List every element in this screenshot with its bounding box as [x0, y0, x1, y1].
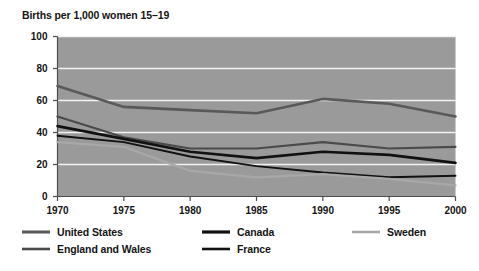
legend-item-united-states[interactable]: United States	[22, 223, 202, 240]
x-tick-label: 1980	[168, 206, 212, 216]
legend-line-swatch	[352, 228, 380, 236]
legend-item-label: United States	[57, 226, 123, 238]
y-tick-label: 0	[22, 192, 48, 202]
chart-container: Births per 1,000 women 15–19 02040608010…	[0, 0, 479, 271]
legend-item-sweden[interactable]: Sweden	[352, 223, 467, 240]
y-tick-label: 100	[22, 32, 48, 42]
x-tick-label: 1995	[367, 206, 411, 216]
plot-background-rect	[58, 37, 456, 197]
legend-line-swatch	[202, 245, 230, 253]
x-axis-ticks	[58, 197, 456, 202]
legend-line-swatch	[22, 245, 50, 253]
y-tick-label: 80	[22, 64, 48, 74]
legend-item-france[interactable]: France	[202, 240, 352, 257]
y-tick-label: 40	[22, 128, 48, 138]
legend-item-label: Canada	[237, 226, 274, 238]
y-tick-label: 60	[22, 96, 48, 106]
legend-item-label: Sweden	[387, 226, 426, 238]
x-tick-label: 1985	[235, 206, 279, 216]
legend-line-swatch	[22, 228, 50, 236]
chart-legend: United StatesCanadaSwedenEngland and Wal…	[22, 223, 467, 257]
legend-item-label: France	[237, 243, 271, 255]
x-tick-label: 2000	[434, 206, 478, 216]
legend-item-label: England and Wales	[57, 243, 151, 255]
x-tick-label: 1990	[301, 206, 345, 216]
legend-line-swatch	[202, 228, 230, 236]
plot-background	[58, 37, 456, 197]
y-tick-label: 20	[22, 160, 48, 170]
x-tick-label: 1970	[36, 206, 80, 216]
legend-item-england-and-wales[interactable]: England and Wales	[22, 240, 202, 257]
x-tick-label: 1975	[102, 206, 146, 216]
legend-item-canada[interactable]: Canada	[202, 223, 352, 240]
